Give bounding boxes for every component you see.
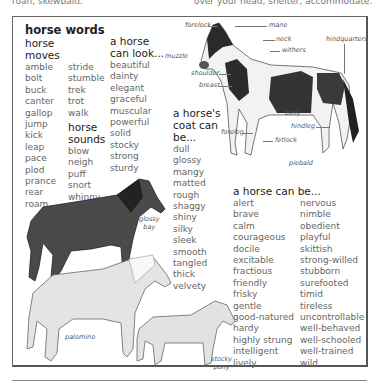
caption-glossy-bay: glossy bay bbox=[139, 215, 160, 231]
leader-line bbox=[316, 127, 330, 128]
word: blow bbox=[68, 146, 105, 157]
word: uncontrollable bbox=[300, 312, 364, 323]
word: well-schooled bbox=[300, 335, 364, 346]
word: friendly bbox=[233, 278, 294, 289]
word: well-behaved bbox=[300, 323, 364, 334]
word: bolt bbox=[25, 73, 56, 84]
word: sleek bbox=[173, 235, 220, 246]
label-belly: belly bbox=[285, 109, 301, 117]
word: fractious bbox=[233, 266, 294, 277]
word: excitable bbox=[233, 255, 294, 266]
word: walk bbox=[68, 108, 104, 119]
label-shoulder: shoulder bbox=[191, 69, 219, 77]
word: frisky bbox=[233, 289, 294, 300]
word: stubborn bbox=[300, 266, 364, 277]
leader-line bbox=[243, 133, 253, 134]
word: gallop bbox=[25, 108, 56, 119]
leader-line bbox=[263, 141, 273, 142]
caption-glossy: glossy bbox=[139, 215, 160, 223]
word: obedient bbox=[300, 221, 364, 232]
label-withers: withers bbox=[282, 46, 306, 54]
label-hindleg: hindleg bbox=[291, 122, 315, 130]
word: plod bbox=[25, 165, 56, 176]
word: sturdy bbox=[110, 163, 164, 174]
word: rough bbox=[173, 190, 220, 201]
word: silky bbox=[173, 224, 220, 235]
label-fetlock: fetlock bbox=[275, 136, 297, 144]
word: good-natured bbox=[233, 312, 294, 323]
word: skittish bbox=[300, 244, 364, 255]
word: thick bbox=[173, 269, 220, 280]
word: intelligent bbox=[233, 346, 294, 357]
caption-palomino: palomino bbox=[65, 333, 95, 341]
label-muzzle: muzzle bbox=[165, 52, 188, 60]
word: alert bbox=[233, 198, 294, 209]
caption-bay: bay bbox=[139, 223, 160, 231]
word: canter bbox=[25, 96, 56, 107]
word: buck bbox=[25, 85, 56, 96]
leader-line bbox=[270, 51, 280, 52]
divider bbox=[12, 380, 367, 381]
word: brave bbox=[233, 209, 294, 220]
leader-line bbox=[208, 26, 218, 27]
word: shaggy bbox=[173, 201, 220, 212]
word: trot bbox=[68, 96, 104, 107]
word: stocky bbox=[110, 140, 164, 151]
word: neigh bbox=[68, 157, 105, 168]
label-neck: neck bbox=[276, 35, 291, 43]
word: courageous bbox=[233, 232, 294, 243]
word: wild bbox=[300, 358, 364, 369]
leader-line bbox=[263, 40, 275, 41]
word: strong bbox=[110, 151, 164, 162]
label-mane: mane bbox=[269, 21, 287, 29]
caption-stocky: stocky bbox=[211, 355, 232, 363]
word: powerful bbox=[110, 117, 164, 128]
word: pace bbox=[25, 153, 56, 164]
word: graceful bbox=[110, 94, 164, 105]
panel-title: horse words bbox=[25, 23, 105, 37]
word: lively bbox=[233, 358, 294, 369]
word: well-trained bbox=[300, 346, 364, 357]
word: shiny bbox=[173, 212, 220, 223]
moves-heading-1: horse bbox=[25, 37, 60, 49]
word: beautiful bbox=[110, 60, 164, 71]
can-be-col-1: alert brave calm courageous docile excit… bbox=[233, 198, 294, 369]
moves-section: horse moves bbox=[25, 37, 60, 61]
look-section: a horse can look... beautiful dainty ele… bbox=[110, 35, 164, 174]
header-left-fragment: roan, skewbald. bbox=[12, 0, 83, 6]
horse-words-panel: horse words horse moves amble bolt buck … bbox=[12, 16, 368, 367]
leader-line bbox=[218, 86, 232, 87]
word: jump bbox=[25, 119, 56, 130]
word: highly strung bbox=[233, 335, 294, 346]
word: elegant bbox=[110, 83, 164, 94]
word: nervous bbox=[300, 198, 364, 209]
word: dainty bbox=[110, 71, 164, 82]
word: stride bbox=[68, 62, 104, 73]
moves-heading-2: moves bbox=[25, 49, 60, 61]
word: hardy bbox=[233, 323, 294, 334]
caption-stocky-pony: stocky pony bbox=[211, 355, 232, 371]
word: playful bbox=[300, 232, 364, 243]
word: timid bbox=[300, 289, 364, 300]
label-hindquarters: hindquarters bbox=[326, 35, 368, 43]
word: surefooted bbox=[300, 278, 364, 289]
moves-col-2: stride stumble trek trot walk bbox=[68, 62, 104, 119]
word: leap bbox=[25, 142, 56, 153]
word: calm bbox=[233, 221, 294, 232]
word: stumble bbox=[68, 73, 104, 84]
look-heading-1: a horse bbox=[110, 35, 164, 47]
header-right-fragment: over your head, shelter, accommodate. bbox=[194, 0, 372, 6]
label-breast: breast bbox=[199, 81, 220, 89]
word: tangled bbox=[173, 258, 220, 269]
sounds-heading-2: sounds bbox=[68, 133, 105, 145]
label-piebald: piebald bbox=[289, 159, 313, 167]
word: muscular bbox=[110, 106, 164, 117]
word: matted bbox=[173, 178, 220, 189]
sounds-heading-1: horse bbox=[68, 121, 105, 133]
word: tireless bbox=[300, 301, 364, 312]
label-foreleg: foreleg bbox=[221, 128, 244, 136]
look-heading-2: can look... bbox=[110, 47, 164, 59]
word: smooth bbox=[173, 247, 220, 258]
leader-line bbox=[344, 44, 345, 74]
caption-pony: pony bbox=[211, 363, 232, 371]
